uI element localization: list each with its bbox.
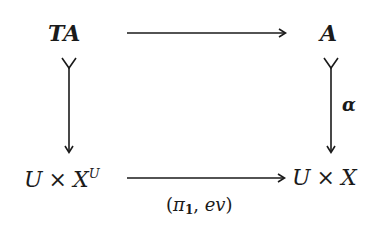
- arrow-top: [127, 29, 286, 37]
- arrow-right-monic: [324, 58, 338, 153]
- label-alpha: α: [342, 96, 356, 114]
- label-pi1-ev: (π1, ev): [166, 196, 233, 216]
- arrow-left-monic: [62, 58, 76, 153]
- alpha-text: α: [342, 94, 356, 115]
- ev-text: ev: [205, 194, 226, 215]
- paren-close: ): [226, 194, 233, 215]
- paren-open: (: [166, 194, 173, 215]
- pi-subscript: 1: [185, 203, 193, 217]
- arrow-bottom: [127, 174, 285, 182]
- pi-symbol: π: [173, 194, 185, 215]
- comma: ,: [193, 194, 204, 215]
